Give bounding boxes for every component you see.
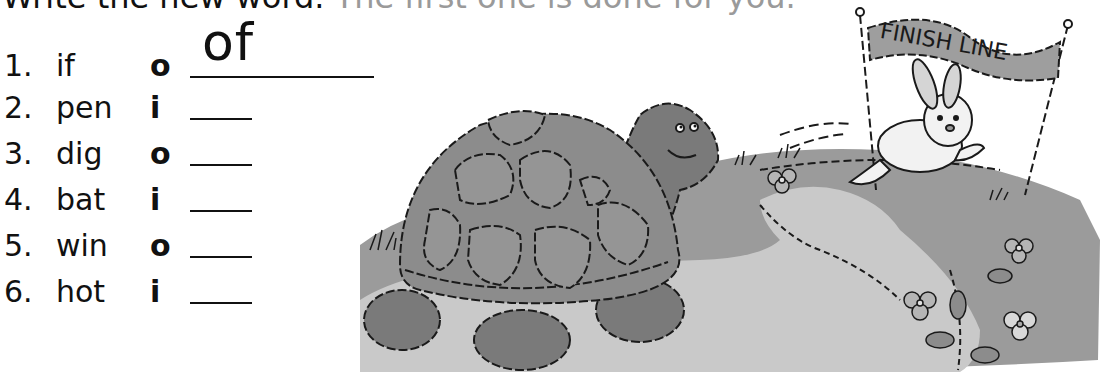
turtle: [364, 104, 718, 370]
turtle-rabbit-illustration: FINISH LINE: [0, 0, 1103, 386]
